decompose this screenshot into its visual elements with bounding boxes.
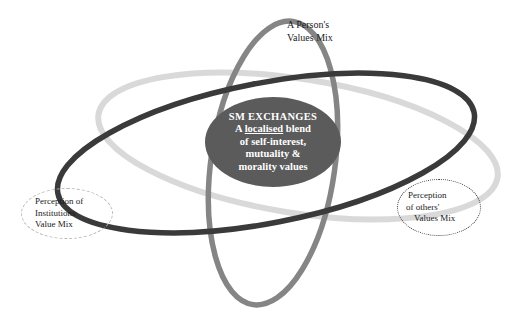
- label-others-line-2: of others': [406, 202, 439, 214]
- core-line-1-after: blend: [283, 123, 311, 134]
- core-line-2: of self-interest,: [240, 136, 306, 149]
- label-institutions-value-mix: Perception of Institutions Value Mix: [21, 188, 113, 239]
- core-line-1-before: A: [235, 123, 245, 134]
- core-line-3: mutuality &: [245, 148, 300, 161]
- label-person-values-mix: A Person's Values Mix: [287, 18, 333, 44]
- core-title: SM EXCHANGES: [229, 111, 318, 123]
- label-others-line-1: Perception: [406, 190, 447, 202]
- label-institutions-line-3: Value Mix: [35, 219, 73, 231]
- core-line-4: morality values: [238, 161, 307, 174]
- label-person-line-1: A Person's: [287, 18, 333, 31]
- label-others-line-3: Values Mix: [406, 213, 455, 225]
- label-institutions-line-2: Institutions: [35, 208, 76, 220]
- label-others-values-mix: Perception of others' Values Mix: [397, 179, 481, 236]
- label-person-line-2: Values Mix: [287, 31, 333, 44]
- label-institutions-line-1: Perception of: [35, 196, 83, 208]
- core-line-1: A localised blend: [235, 123, 311, 136]
- diagram-canvas: SM EXCHANGES A localised blend of self-i…: [0, 0, 520, 319]
- core-line-1-underlined: localised: [245, 123, 284, 134]
- core-sm-exchanges: SM EXCHANGES A localised blend of self-i…: [205, 97, 341, 187]
